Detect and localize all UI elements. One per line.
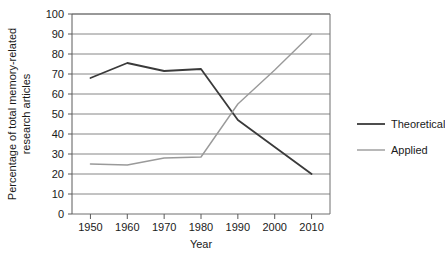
y-tick-label: 10: [52, 188, 64, 200]
x-tick-label: 1950: [78, 221, 102, 233]
chart-figure: 0102030405060708090100 19501960197019801…: [0, 0, 445, 257]
x-tick-label: 2000: [262, 221, 286, 233]
y-tick-label: 80: [52, 48, 64, 60]
y-axis-title: Percentage of total memory-related resea…: [6, 28, 32, 200]
legend-label-theoretical: Theoretical: [391, 118, 445, 130]
line-chart: 0102030405060708090100 19501960197019801…: [0, 0, 445, 257]
y-tick-label: 40: [52, 128, 64, 140]
x-tick-label: 1980: [189, 221, 213, 233]
y-tick-label: 100: [46, 8, 64, 20]
y-tick-label: 60: [52, 88, 64, 100]
legend-label-applied: Applied: [391, 144, 428, 156]
y-tick-label: 50: [52, 108, 64, 120]
y-tick-label: 70: [52, 68, 64, 80]
x-tick-label: 2010: [299, 221, 323, 233]
chart-legend: TheoreticalApplied: [357, 118, 445, 156]
x-tick-label: 1990: [226, 221, 250, 233]
y-tick-label: 90: [52, 28, 64, 40]
x-tick-label: 1970: [152, 221, 176, 233]
x-axis-ticks: 1950196019701980199020002010: [78, 214, 324, 233]
x-tick-label: 1960: [115, 221, 139, 233]
y-tick-label: 20: [52, 168, 64, 180]
y-axis-ticks: 0102030405060708090100: [46, 8, 72, 220]
y-tick-label: 0: [58, 208, 64, 220]
x-axis-title: Year: [190, 238, 213, 250]
y-axis-title-line1: Percentage of total memory-related: [6, 28, 18, 200]
y-axis-title-line2: research articles: [20, 73, 32, 154]
y-tick-label: 30: [52, 148, 64, 160]
